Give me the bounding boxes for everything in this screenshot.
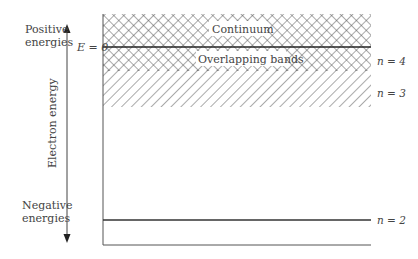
- level-n2-label: n = 2: [377, 214, 406, 226]
- energy-band-diagram: Positive energies Negative energies Elec…: [0, 0, 418, 259]
- arrow-down-icon: [64, 234, 71, 243]
- positive-energies-label-1: Positive: [25, 23, 68, 36]
- continuum-label: Continuum: [212, 23, 274, 36]
- negative-energies-label-2: energies: [22, 212, 70, 225]
- positive-energies-label-2: energies: [25, 36, 73, 49]
- negative-energies-label-1: Negative: [22, 199, 72, 212]
- overlapping-bands-label: Overlapping bands: [198, 53, 304, 66]
- level-n4-label: n = 4: [377, 55, 406, 67]
- electron-energy-axis-label: Electron energy: [46, 77, 59, 168]
- zero-energy-label: E = 0: [76, 41, 108, 54]
- band-hatch-region: [103, 70, 371, 107]
- level-n3-label: n = 3: [377, 87, 406, 99]
